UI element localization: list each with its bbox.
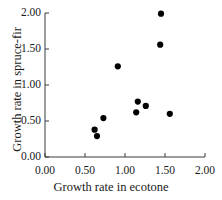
data-point — [167, 111, 173, 117]
data-point — [157, 42, 163, 48]
x-axis-title: Growth rate in ecotone — [0, 180, 222, 195]
data-point — [100, 115, 106, 121]
plot-canvas — [0, 0, 222, 200]
x-tick-label: 0.50 — [75, 165, 95, 177]
x-tick-label: 2.00 — [195, 165, 215, 177]
x-tick-label: 1.50 — [155, 165, 175, 177]
x-tick-label: 1.00 — [115, 165, 135, 177]
data-point — [94, 133, 100, 139]
data-point — [115, 63, 121, 69]
data-point — [158, 11, 164, 17]
scatter-plot: 0.000.501.001.502.000.000.501.001.502.00… — [0, 0, 222, 200]
data-point — [143, 103, 149, 109]
y-axis-title: Growth rate in spruce-fir — [10, 15, 25, 165]
data-point — [135, 98, 141, 104]
data-point — [92, 127, 98, 133]
x-tick-label: 0.00 — [35, 165, 55, 177]
data-point — [133, 109, 139, 115]
